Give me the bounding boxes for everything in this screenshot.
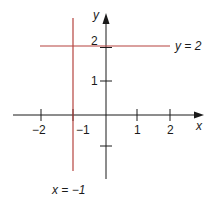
equation-label-x-equals-neg1: x = −1 — [51, 183, 85, 197]
x-tick-label-1: 1 — [134, 123, 141, 137]
x-axis-label: x — [195, 119, 203, 133]
coordinate-plane: y x −2 −1 1 2 1 2 y = 2 x = −1 — [0, 0, 212, 204]
y-axis-arrow-icon — [103, 13, 110, 24]
equation-label-y-equals-2: y = 2 — [174, 39, 202, 53]
y-tick-label-2: 2 — [91, 34, 98, 48]
x-axis-arrow-icon — [194, 112, 204, 119]
y-tick-label-1: 1 — [91, 74, 98, 88]
x-tick-label-2: 2 — [167, 123, 174, 137]
y-axis-label: y — [92, 8, 100, 22]
x-tick-label-neg2: −2 — [32, 123, 46, 137]
x-tick-label-neg1: −1 — [76, 123, 90, 137]
